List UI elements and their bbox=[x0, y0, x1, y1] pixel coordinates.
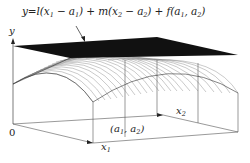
x2-arrow-icon bbox=[157, 113, 163, 117]
plane-equation: y=l(x1 − a1) + m(x2 − a2) + f(a1, a2) bbox=[22, 6, 205, 19]
x1-axis-label: x1 bbox=[101, 142, 111, 154]
x1-arrow-icon bbox=[87, 140, 93, 144]
pointer-arrow-icon bbox=[81, 36, 85, 42]
tangent-plane-diagram bbox=[0, 0, 250, 163]
surface-mesh bbox=[13, 55, 238, 102]
surface-outline bbox=[13, 58, 238, 102]
y-axis-label: y bbox=[9, 26, 15, 36]
x1-axis bbox=[13, 124, 93, 143]
point-label: (a1, a2) bbox=[110, 124, 144, 136]
tangent-plane bbox=[13, 37, 238, 58]
x2-axis-label: x2 bbox=[176, 106, 186, 118]
y-arrow-icon bbox=[11, 38, 15, 44]
base-right-edge bbox=[163, 115, 238, 132]
origin-label: 0 bbox=[9, 128, 15, 138]
